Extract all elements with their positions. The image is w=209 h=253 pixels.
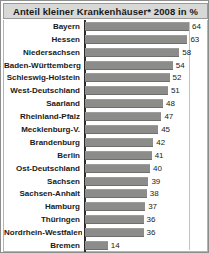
bar xyxy=(85,48,179,57)
bar-row: Sachsen-Anhalt38 xyxy=(4,188,209,201)
bar-track: 36 xyxy=(85,226,209,239)
bar-row: Berlin41 xyxy=(4,149,209,162)
bar-row: Thüringen36 xyxy=(4,213,209,226)
bar-row: Niedersachsen58 xyxy=(4,46,209,59)
bar-track: 54 xyxy=(85,59,209,72)
bar-track: 39 xyxy=(85,175,209,188)
bar-track: 64 xyxy=(85,20,209,33)
bar-track: 45 xyxy=(85,123,209,136)
bar-row: Schleswig-Holstein52 xyxy=(4,72,209,85)
bar-category-label: Sachsen-Anhalt xyxy=(4,189,82,198)
bar-category-label: Rheinland-Pfalz xyxy=(4,112,82,121)
bar-value-label: 54 xyxy=(176,61,185,70)
bar-row: Bayern64 xyxy=(4,20,209,33)
bar-category-label: Baden-Württemberg xyxy=(4,61,82,70)
bar-value-label: 41 xyxy=(155,151,164,160)
bar-row: Nordrhein-Westfalen36 xyxy=(4,226,209,239)
bar-track: 37 xyxy=(85,200,209,213)
bar xyxy=(85,22,189,31)
bar-value-label: 14 xyxy=(111,241,120,250)
bar-category-label: Sachsen xyxy=(4,177,82,186)
bar-value-label: 42 xyxy=(156,138,165,147)
bar-category-label: Mecklenburg-V. xyxy=(4,125,82,134)
bar-track: 41 xyxy=(85,149,209,162)
bar-category-label: Thüringen xyxy=(4,215,82,224)
bar xyxy=(85,35,187,44)
bar-value-label: 47 xyxy=(164,112,173,121)
bar-category-label: Nordrhein-Westfalen xyxy=(4,228,82,237)
bar xyxy=(85,125,158,134)
bar-value-label: 36 xyxy=(147,215,156,224)
bar xyxy=(85,189,147,198)
bar-track: 40 xyxy=(85,162,209,175)
bar-row: Sachsen39 xyxy=(4,175,209,188)
bar xyxy=(85,241,108,250)
bar-category-label: Niedersachsen xyxy=(4,48,82,57)
bar-value-label: 45 xyxy=(161,125,170,134)
bar-category-label: Bremen xyxy=(4,241,82,250)
bar-row: Saarland48 xyxy=(4,97,209,110)
bar-category-label: Schleswig-Holstein xyxy=(4,73,82,82)
bar-track: 52 xyxy=(85,72,209,85)
bar-value-label: 52 xyxy=(173,73,182,82)
bar-value-label: 39 xyxy=(151,177,160,186)
bar-row: Rheinland-Pfalz47 xyxy=(4,110,209,123)
bar xyxy=(85,73,170,82)
bar-category-label: Brandenburg xyxy=(4,138,82,147)
bar-row: Brandenburg42 xyxy=(4,136,209,149)
bar-track: 63 xyxy=(85,33,209,46)
bar-category-label: Bayern xyxy=(4,22,82,31)
chart-title-bar: Anteil kleiner Krankenhäuser* 2008 in % xyxy=(3,3,208,19)
bar xyxy=(85,177,148,186)
plot-area: Bayern64Hessen63Niedersachsen58Baden-Wür… xyxy=(3,20,208,252)
bar-track: 47 xyxy=(85,110,209,123)
bar-value-label: 38 xyxy=(150,189,159,198)
bar-category-label: Hessen xyxy=(4,35,82,44)
bar-track: 38 xyxy=(85,188,209,201)
bar-value-label: 51 xyxy=(171,86,180,95)
bar-track: 14 xyxy=(85,239,209,252)
bar xyxy=(85,215,144,224)
bar-row: Ost-Deutschland40 xyxy=(4,162,209,175)
bar-row: Bremen14 xyxy=(4,239,209,252)
bar-track: 51 xyxy=(85,84,209,97)
bar-value-label: 36 xyxy=(147,228,156,237)
bar xyxy=(85,99,163,108)
bar-value-label: 64 xyxy=(192,22,201,31)
bar-track: 42 xyxy=(85,136,209,149)
bar-row: Baden-Württemberg54 xyxy=(4,59,209,72)
chart-title: Anteil kleiner Krankenhäuser* 2008 in % xyxy=(13,6,198,17)
bar-row: Hessen63 xyxy=(4,33,209,46)
bar xyxy=(85,138,153,147)
bar-track: 58 xyxy=(85,46,209,59)
bar-track: 36 xyxy=(85,213,209,226)
bar-category-label: Berlin xyxy=(4,151,82,160)
bar-category-label: Hamburg xyxy=(4,202,82,211)
bar xyxy=(85,202,145,211)
bar-row: West-Deutschland51 xyxy=(4,84,209,97)
bar-category-label: Saarland xyxy=(4,99,82,108)
bar-row: Mecklenburg-V.45 xyxy=(4,123,209,136)
bar xyxy=(85,61,173,70)
bar xyxy=(85,86,168,95)
bar-value-label: 40 xyxy=(153,164,162,173)
bar xyxy=(85,112,161,121)
bar-category-label: Ost-Deutschland xyxy=(4,164,82,173)
bar-value-label: 63 xyxy=(190,35,199,44)
chart-figure: Anteil kleiner Krankenhäuser* 2008 in % … xyxy=(0,0,209,253)
bar-row: Hamburg37 xyxy=(4,200,209,213)
bar-value-label: 48 xyxy=(166,99,175,108)
bar-category-label: West-Deutschland xyxy=(4,86,82,95)
bar-value-label: 37 xyxy=(148,202,157,211)
bar-value-label: 58 xyxy=(182,48,191,57)
bar xyxy=(85,151,152,160)
bar-track: 48 xyxy=(85,97,209,110)
bar xyxy=(85,228,144,237)
bar xyxy=(85,164,150,173)
